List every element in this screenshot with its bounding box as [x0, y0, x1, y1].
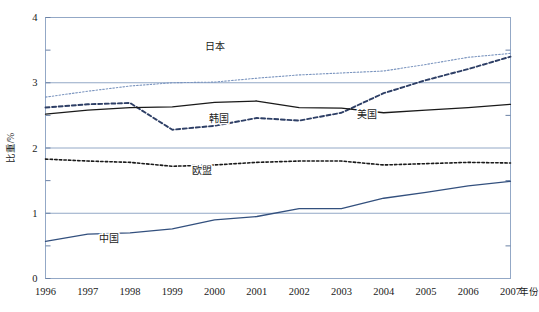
chart-canvas: 01234 1996199719981999200020012002200320… — [0, 0, 539, 312]
x-axis-title: 年份 — [519, 286, 539, 297]
chart-background — [0, 0, 539, 312]
x-tick-label-1999: 1999 — [162, 286, 183, 297]
series-label-中国: 中国 — [99, 232, 119, 244]
series-label-韩国: 韩国 — [209, 112, 229, 124]
x-tick-label-2002: 2002 — [289, 286, 310, 297]
series-label-欧盟: 欧盟 — [192, 165, 212, 176]
x-tick-label-2004: 2004 — [373, 286, 395, 297]
x-tick-label-1997: 1997 — [77, 286, 98, 297]
x-tick-label-1996: 1996 — [35, 286, 56, 297]
y-tick-label-2: 2 — [32, 143, 37, 154]
y-tick-label-3: 3 — [32, 77, 37, 88]
x-tick-label-2006: 2006 — [458, 286, 479, 297]
x-tick-label-2000: 2000 — [204, 286, 225, 297]
x-tick-label-2003: 2003 — [331, 286, 352, 297]
series-label-美国: 美国 — [357, 108, 377, 120]
x-tick-label-1998: 1998 — [120, 286, 141, 297]
x-tick-label-2005: 2005 — [415, 286, 436, 297]
y-tick-label-0: 0 — [32, 273, 37, 284]
line-chart: 01234 1996199719981999200020012002200320… — [0, 0, 539, 312]
y-axis-title: 比重/% — [5, 133, 16, 164]
x-tick-label-2001: 2001 — [246, 286, 267, 297]
y-tick-label-1: 1 — [32, 208, 37, 219]
y-tick-label-4: 4 — [32, 12, 38, 23]
series-label-日本: 日本 — [205, 40, 225, 52]
